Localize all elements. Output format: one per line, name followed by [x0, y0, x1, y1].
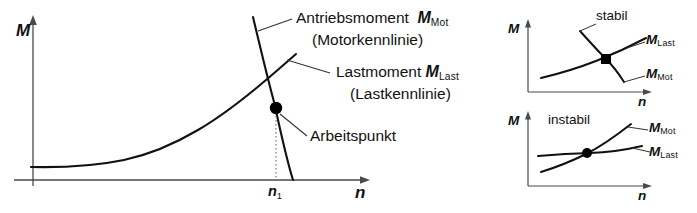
- load-curve-annotation-line2: (Lastkennlinie): [350, 86, 451, 102]
- tick-label-subscript: 1: [277, 190, 283, 201]
- inset-unstable-motor-curve: [541, 124, 631, 172]
- load-annotation-text: Lastmoment: [336, 63, 421, 80]
- load-annotation-symbol-subscript: Last: [439, 71, 459, 82]
- motor-annotation-symbol-subscript: Mot: [431, 17, 449, 28]
- operating-point-annotation: Arbeitspunkt: [310, 128, 396, 144]
- inset-unstable-y-axis-arrow: [525, 111, 531, 120]
- load-annotation-symbol: M: [426, 63, 439, 80]
- inset-unstable-motor-curve-label: MMot: [649, 121, 676, 135]
- main-x-axis-label: n: [355, 184, 365, 201]
- inset-unstable-operating-point-marker: [582, 148, 592, 158]
- inset-unstable-motor-leader-line: [628, 127, 648, 130]
- motor-characteristic-curve: [253, 17, 293, 180]
- torque-speed-characteristic-figure: M n n1 Antriebsmoment MMot (Motorkennlin…: [0, 0, 697, 213]
- inset-stable-operating-point-marker: [601, 54, 611, 64]
- inset-stable-load-symbol-subscript: Last: [657, 38, 675, 48]
- main-y-axis-arrow: [29, 15, 37, 25]
- load-characteristic-curve: [31, 54, 296, 167]
- inset-stable-motor-symbol: M: [646, 66, 657, 81]
- operating-point-label-leader-line: [280, 114, 307, 136]
- main-x-tick-label-n1: n1: [268, 184, 282, 199]
- inset-stable-y-axis-label: M: [508, 22, 519, 36]
- inset-unstable-load-leader-line: [632, 148, 650, 152]
- inset-unstable-motor-symbol-subscript: Mot: [660, 126, 675, 136]
- inset-stable-axes: [525, 19, 652, 95]
- inset-unstable-load-symbol: M: [649, 144, 660, 159]
- tick-label-base: n: [268, 183, 277, 199]
- inset-unstable-motor-symbol: M: [649, 120, 660, 135]
- inset-unstable-y-axis-label: M: [508, 114, 519, 128]
- motor-annotation-symbol: M: [417, 9, 430, 26]
- inset-stable-y-axis-arrow: [525, 19, 531, 28]
- inset-stable-load-symbol: M: [646, 32, 657, 47]
- inset-stable-motor-curve-label: MMot: [646, 67, 673, 81]
- inset-stable-caption-leader-line: [580, 24, 596, 31]
- motor-label-leader-line: [258, 19, 292, 31]
- inset-stable-x-axis-label: n: [638, 95, 646, 109]
- motor-annotation-text: Antriebsmoment: [296, 9, 409, 26]
- inset-stable-caption: stabil: [596, 9, 628, 23]
- inset-stable-load-curve-label: MLast: [646, 33, 675, 47]
- inset-stable-motor-leader-line: [624, 76, 645, 82]
- load-curve-annotation-line1: Lastmoment MLast: [336, 64, 459, 80]
- inset-unstable-caption: instabil: [548, 113, 590, 127]
- motor-curve-annotation-line1: Antriebsmoment MMot: [296, 10, 448, 26]
- load-label-leader-line: [287, 60, 330, 73]
- inset-stable-load-curve: [541, 38, 646, 78]
- operating-point-marker: [270, 102, 282, 114]
- inset-unstable-load-curve-label: MLast: [649, 145, 678, 159]
- main-y-axis-label: M: [16, 22, 30, 39]
- inset-unstable-x-axis-label: n: [638, 189, 646, 203]
- inset-stable-motor-symbol-subscript: Mot: [657, 72, 672, 82]
- inset-unstable-load-symbol-subscript: Last: [660, 150, 678, 160]
- motor-curve-annotation-line2: (Motorkennlinie): [312, 32, 423, 48]
